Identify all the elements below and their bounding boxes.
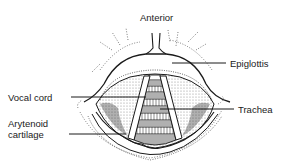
arytenoid-label-line1: Arytenoid (8, 118, 48, 129)
vocal-cord-label: Vocal cord (8, 92, 52, 103)
larynx-diagram: Anterior Epiglottis Vocal cord Trachea A… (0, 0, 293, 167)
anterior-label: Anterior (140, 12, 173, 23)
arytenoid-label-line2: cartilage (8, 129, 44, 140)
epiglottis-label: Epiglottis (230, 58, 269, 69)
trachea-label: Trachea (238, 104, 273, 115)
larynx-illustration (0, 0, 293, 167)
epiglottis-stalk (146, 33, 166, 54)
